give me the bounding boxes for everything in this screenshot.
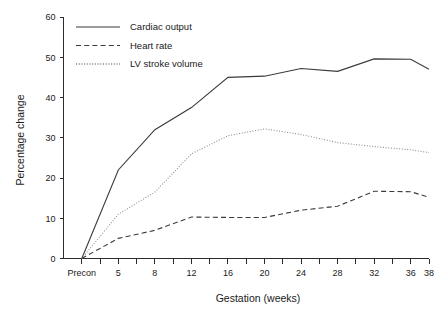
- x-axis-tick-labels: Precon581216202428323638: [68, 268, 434, 278]
- x-axis-tick-label: 12: [186, 268, 196, 278]
- series-line-lv-stroke-volume: [82, 129, 429, 259]
- y-axis-tick-label: 50: [45, 53, 55, 63]
- line-chart-canvas: 0102030405060 Precon581216202428323638 P…: [0, 0, 439, 312]
- x-axis-title: Gestation (weeks): [216, 292, 301, 304]
- x-axis-tick-label: 38: [424, 268, 434, 278]
- y-axis-tick-label: 30: [45, 133, 55, 143]
- x-axis-tick-label: 24: [296, 268, 306, 278]
- legend-label-0: Cardiac output: [130, 21, 192, 32]
- x-axis-tick-label: Precon: [68, 268, 97, 278]
- x-axis-tick-label: 20: [260, 268, 270, 278]
- y-axis-tick-label: 10: [45, 214, 55, 224]
- plot-axes: [60, 17, 430, 264]
- y-axis-tick-label: 60: [45, 12, 55, 22]
- x-axis-tick-marks: [82, 259, 429, 264]
- axis-lines: [64, 17, 430, 259]
- y-axis-tick-marks: [60, 17, 64, 259]
- y-axis-tick-label: 0: [50, 254, 55, 264]
- y-axis-title: Percentage change: [14, 94, 26, 185]
- chart-figure: 0102030405060 Precon581216202428323638 P…: [0, 0, 439, 312]
- series-line-cardiac-output: [82, 59, 429, 259]
- legend-label-1: Heart rate: [130, 40, 172, 51]
- x-axis-tick-label: 5: [116, 268, 121, 278]
- y-axis-tick-label: 40: [45, 93, 55, 103]
- y-axis-tick-labels: 0102030405060: [45, 12, 55, 263]
- data-series-layer: [82, 59, 429, 259]
- x-axis-tick-label: 28: [333, 268, 343, 278]
- x-axis-tick-label: 8: [152, 268, 157, 278]
- chart-legend: Cardiac outputHeart rateLV stroke volume: [76, 21, 203, 69]
- y-axis-tick-label: 20: [45, 173, 55, 183]
- legend-label-2: LV stroke volume: [130, 58, 203, 69]
- series-line-heart-rate: [82, 191, 429, 258]
- x-axis-tick-label: 36: [406, 268, 416, 278]
- x-axis-tick-label: 16: [223, 268, 233, 278]
- x-axis-tick-label: 32: [369, 268, 379, 278]
